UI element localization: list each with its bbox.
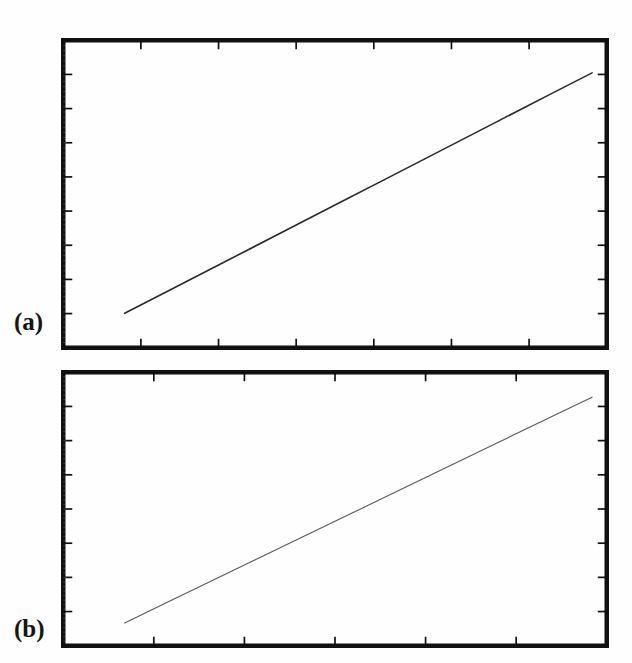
tick-group — [63, 40, 607, 348]
panel-b — [55, 365, 615, 657]
panel-b-plot — [55, 365, 615, 657]
tick-group — [63, 372, 607, 646]
plot-frame — [63, 372, 607, 646]
data-line-series-b — [125, 397, 592, 623]
panel-b-label: (b) — [14, 616, 45, 641]
figure-canvas: (a) (b) — [0, 0, 632, 663]
data-line-series-a — [125, 73, 592, 313]
panel-a-plot — [55, 33, 615, 358]
panel-a — [55, 33, 615, 358]
panel-a-label: (a) — [14, 309, 43, 334]
plot-frame — [63, 40, 607, 348]
